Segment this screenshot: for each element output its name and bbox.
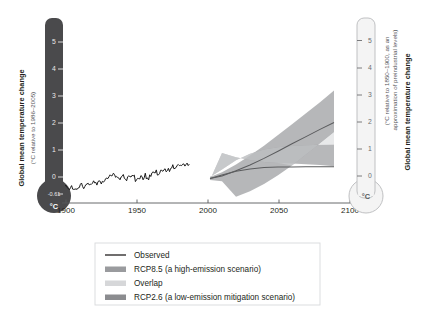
x-tick-1900: 1900: [57, 206, 75, 215]
right-tick-0: 0: [368, 172, 372, 179]
x-tick-2000: 2000: [199, 206, 217, 215]
legend-swatch-rcp85: [105, 267, 126, 273]
right-axis-title: Global mean temperature change: [403, 53, 412, 170]
left-tick-1: 1: [52, 146, 56, 153]
right-tick-4: 4: [368, 64, 372, 71]
left-tick-5: 5: [52, 38, 56, 45]
legend-label-rcp85: RCP8.5 (a high-emission scenario): [134, 265, 261, 274]
x-tick-2050: 2050: [270, 206, 288, 215]
right-tick-1: 1: [368, 145, 372, 152]
left-axis-title: Global mean temperature change: [17, 69, 26, 186]
legend-label-rcp26: RCP2.6 (a low-emission mitigation scenar…: [134, 293, 295, 302]
legend-item-rcp26: RCP2.6 (a low-emission mitigation scenar…: [105, 293, 295, 302]
left-axis-subtitle: (°C relative to 1986–2005): [29, 92, 36, 164]
left-axis-offset-label: -0.61: [48, 191, 61, 197]
right-tick-3: 3: [368, 91, 372, 98]
legend: Observed RCP8.5 (a high-emission scenari…: [95, 243, 320, 305]
left-tick-2: 2: [52, 119, 56, 126]
legend-swatch-overlap: [105, 281, 126, 287]
right-tick-5: 5: [368, 37, 372, 44]
legend-label-overlap: Overlap: [134, 279, 163, 288]
legend-swatch-rcp26: [105, 295, 126, 301]
right-tick-2: 2: [368, 118, 372, 125]
right-axis-subtitle: (°C relative to 1850–1900, as an approxi…: [383, 30, 398, 131]
x-tick-1950: 1950: [128, 206, 146, 215]
left-tick-4: 4: [52, 65, 56, 72]
left-tick-0: 0: [52, 173, 56, 180]
left-tick-3: 3: [52, 92, 56, 99]
climate-projection-figure: 5 4 3 2 1 0 -0.61 °C Global mean tempera…: [0, 0, 421, 324]
legend-label-observed: Observed: [134, 251, 170, 260]
figure-svg: 5 4 3 2 1 0 -0.61 °C Global mean tempera…: [0, 0, 421, 324]
right-axis-bulb-label: °C: [362, 192, 371, 201]
